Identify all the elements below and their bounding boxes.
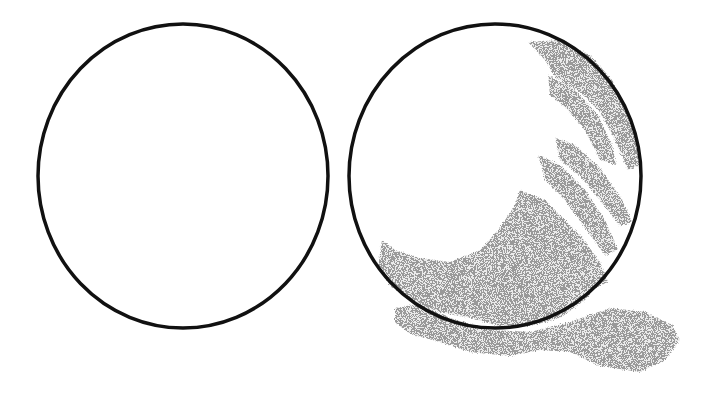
drawing-canvas (0, 0, 716, 398)
empty-circle (38, 24, 328, 328)
